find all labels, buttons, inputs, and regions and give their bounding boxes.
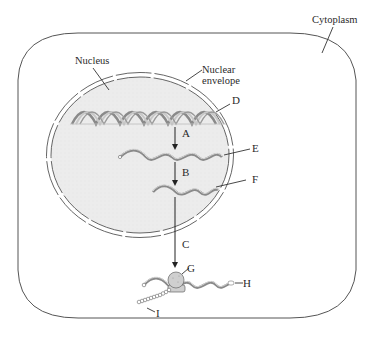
label-e: E xyxy=(252,142,259,154)
leader-cytoplasm xyxy=(322,27,333,53)
label-cytoplasm: Cytoplasm xyxy=(312,14,358,25)
translating-mrna xyxy=(142,277,234,287)
label-step-a: A xyxy=(182,127,190,139)
leader-i xyxy=(147,308,155,312)
label-nucleus: Nucleus xyxy=(75,55,109,66)
label-h: H xyxy=(243,277,251,289)
polypeptide-chain xyxy=(137,288,171,304)
nucleus xyxy=(51,77,229,233)
label-i: I xyxy=(156,307,160,319)
label-g: G xyxy=(187,262,195,274)
gene-expression-diagram: Cytoplasm Nucleus Nuclear envelope D E F… xyxy=(0,0,374,337)
label-nuclear-envelope-line1: Nuclear xyxy=(202,64,236,75)
label-step-c: C xyxy=(182,238,189,250)
label-step-b: B xyxy=(182,166,189,178)
leader-d xyxy=(216,104,230,112)
leader-nuclear-envelope xyxy=(186,70,202,81)
label-d: D xyxy=(232,94,240,106)
label-nuclear-envelope-line2: envelope xyxy=(202,75,240,86)
label-f: F xyxy=(252,173,258,185)
